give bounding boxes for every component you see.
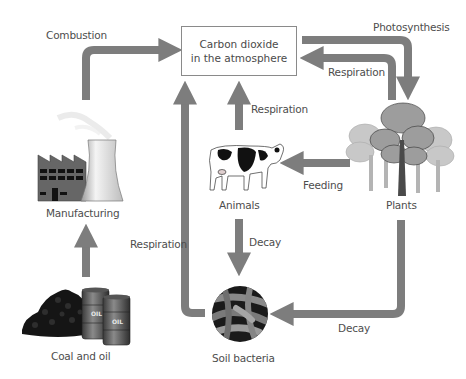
carbon-dioxide-box: Carbon dioxide in the atmosphere	[181, 26, 297, 76]
label-decay-plants: Decay	[338, 322, 370, 334]
label-soil-bacteria: Soil bacteria	[212, 352, 275, 364]
combustion-arrow	[86, 50, 168, 100]
box-line-1: Carbon dioxide	[199, 37, 278, 51]
label-decay-animals: Decay	[249, 236, 281, 248]
label-respiration-plants: Respiration	[328, 66, 385, 78]
label-feeding: Feeding	[303, 179, 343, 191]
label-combustion: Combustion	[46, 29, 107, 41]
label-respiration-bacteria: Respiration	[130, 238, 187, 250]
decay-plants-arrow	[284, 220, 401, 314]
label-respiration-animals: Respiration	[251, 103, 308, 115]
respiration-plants-arrow	[314, 58, 392, 100]
label-manufacturing: Manufacturing	[46, 207, 119, 219]
label-photosynthesis: Photosynthesis	[373, 21, 450, 33]
box-line-2: in the atmosphere	[191, 51, 287, 65]
label-animals: Animals	[219, 199, 259, 211]
label-plants: Plants	[386, 199, 417, 211]
label-coal-and-oil: Coal and oil	[51, 350, 110, 362]
respiration-bacteria-arrow	[185, 95, 205, 313]
